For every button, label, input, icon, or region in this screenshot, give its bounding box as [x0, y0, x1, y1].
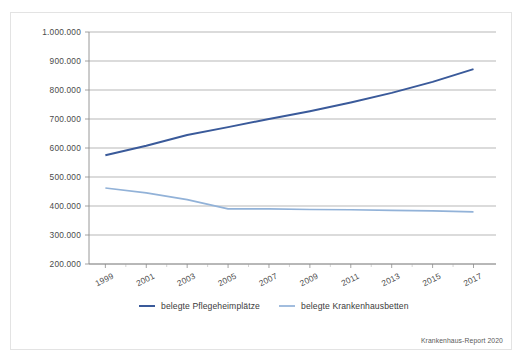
- x-tick-label: 2015: [421, 271, 443, 289]
- x-tick-label: 2017: [462, 271, 484, 289]
- x-axis-tick-labels: 1999200120032005200720092011201320152017: [94, 271, 484, 289]
- y-axis-tick-labels: 200.000300.000400.000500.000600.000700.0…: [42, 27, 81, 269]
- legend-item-label: belegte Pflegeheimplätze: [161, 301, 260, 311]
- x-tick-label: 2009: [298, 271, 320, 289]
- x-tick-label: 2013: [380, 271, 402, 289]
- x-tick-label: 2003: [175, 271, 197, 289]
- y-tick-label: 1.000.000: [42, 27, 81, 37]
- y-tick-label: 200.000: [50, 259, 82, 269]
- y-tick-label: 900.000: [50, 56, 82, 66]
- y-tick-label: 300.000: [50, 230, 82, 240]
- y-tick-label: 600.000: [50, 143, 82, 153]
- y-tick-label: 500.000: [50, 172, 82, 182]
- legend-item-label: belegte Krankenhausbetten: [301, 301, 409, 311]
- chart-legend: belegte Pflegeheimplätzebelegte Krankenh…: [139, 301, 409, 311]
- y-tick-label: 800.000: [50, 85, 82, 95]
- x-tick-label: 2007: [257, 271, 279, 289]
- axis-ticks: [85, 32, 474, 268]
- y-tick-label: 400.000: [50, 201, 82, 211]
- series-line: [105, 69, 473, 155]
- chart-figure: 200.000300.000400.000500.000600.000700.0…: [10, 12, 512, 350]
- data-series: [105, 69, 473, 212]
- gridlines: [89, 32, 496, 264]
- x-tick-label: 2005: [216, 271, 238, 289]
- source-attribution: Krankenhaus-Report 2020: [421, 337, 503, 345]
- x-tick-label: 2011: [340, 271, 361, 288]
- y-tick-label: 700.000: [50, 114, 82, 124]
- x-tick-label: 2001: [134, 271, 156, 289]
- x-tick-label: 1999: [94, 271, 116, 289]
- series-line: [105, 188, 473, 212]
- line-chart: 200.000300.000400.000500.000600.000700.0…: [11, 13, 513, 351]
